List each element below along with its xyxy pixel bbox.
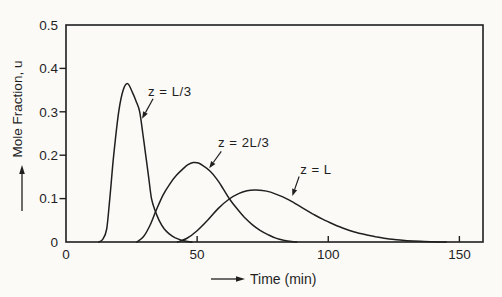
annotation-leader-line <box>213 151 221 162</box>
x-axis-right-arrow-icon <box>236 276 245 282</box>
y-tick-label: 0.4 <box>39 61 58 76</box>
y-tick-label: 0.1 <box>39 191 58 206</box>
data-curves <box>99 84 447 242</box>
annotation-arrowhead-icon <box>142 111 148 118</box>
x-tick-label: 150 <box>448 247 471 262</box>
x-axis-label-group: Time (min) <box>211 271 316 287</box>
curve-3-zl <box>178 190 447 242</box>
plot-frame <box>66 25 483 242</box>
y-tick-label: 0.3 <box>39 105 58 120</box>
y-axis-title: Mole Fraction, u <box>10 61 25 158</box>
curve-annotations: z = L/3z = 2L/3z = L <box>142 84 332 196</box>
figure-container: 05010015000.10.20.30.40.5 z = L/3z = 2L/… <box>0 0 502 297</box>
curve-label: z = L/3 <box>148 84 191 99</box>
annotation-leader-line <box>145 99 153 113</box>
annotation-arrowhead-icon <box>292 189 297 196</box>
curve-label: z = 2L/3 <box>218 135 269 150</box>
curve-1-zl3 <box>99 84 192 242</box>
annotation-leader-line <box>295 176 300 189</box>
annotation-arrowhead-icon <box>209 161 215 168</box>
y-tick-label: 0 <box>50 235 58 250</box>
x-axis-title: Time (min) <box>250 271 316 287</box>
x-tick-label: 100 <box>317 247 340 262</box>
chart-canvas: 05010015000.10.20.30.40.5 z = L/3z = 2L/… <box>0 0 502 297</box>
y-axis-up-arrow-icon <box>19 165 25 174</box>
y-axis-label-group: Mole Fraction, u <box>10 61 25 211</box>
y-tick-label: 0.2 <box>39 148 58 163</box>
curve-2-z2l3 <box>137 162 297 242</box>
curve-label: z = L <box>300 162 331 177</box>
x-tick-label: 50 <box>190 247 205 262</box>
y-tick-label: 0.5 <box>39 18 58 33</box>
x-tick-label: 0 <box>62 247 70 262</box>
